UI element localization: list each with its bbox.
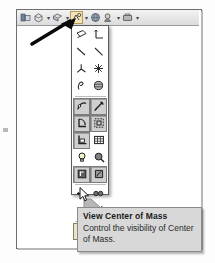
routing-point-icon (75, 78, 88, 96)
display-style-icon (90, 12, 101, 23)
origin-icon (92, 44, 105, 62)
center-of-mass-tooltip: View Center of Mass Control the visibili… (77, 207, 202, 252)
view-route-points-item[interactable] (73, 186, 90, 203)
apply-scene-dropdown-arrow[interactable]: ▾ (134, 11, 140, 24)
zoom-to-area-button[interactable] (32, 11, 45, 24)
hide-show-items-flyout[interactable] (71, 25, 109, 195)
view-temporary-axes-item[interactable] (73, 44, 90, 61)
sketch-3d-icon (76, 115, 88, 133)
camera-icon (93, 149, 105, 167)
light-bulb-icon (76, 149, 88, 167)
view-origins-item[interactable] (90, 44, 107, 61)
tooltip-title: View Center of Mass (83, 211, 196, 222)
tooltip-body: Control the visibility of Center of Mass… (83, 223, 196, 245)
point-icon (92, 61, 105, 79)
hide-show-items-button[interactable] (70, 11, 83, 24)
display-style-button[interactable] (89, 11, 102, 24)
view-routing-points-item[interactable] (73, 78, 90, 95)
scan-artifact (3, 128, 8, 132)
plane-icon (75, 27, 88, 45)
zoom-to-fit-icon (20, 12, 31, 23)
view-3d-sketches-item[interactable] (73, 115, 90, 132)
view-lights-item[interactable] (73, 149, 90, 166)
zoom-to-fit-button[interactable] (19, 11, 32, 24)
apply-scene-button[interactable] (121, 11, 134, 24)
previous-view-button[interactable] (51, 11, 64, 24)
view-orientation-button[interactable] (102, 11, 115, 24)
view-grid-item[interactable] (90, 132, 107, 149)
sketch-dimension-icon (76, 132, 88, 150)
annotation-icon (76, 166, 88, 184)
view-axes-item[interactable] (90, 27, 107, 44)
view-sketch-dimensions-item[interactable] (73, 132, 90, 149)
view-all-annotations-item[interactable] (73, 166, 90, 183)
view-curves-item[interactable] (73, 98, 90, 115)
view-planes-item[interactable] (73, 27, 90, 44)
apply-scene-icon (122, 12, 133, 23)
view-points-item[interactable] (90, 61, 107, 78)
view-weld-beads-item[interactable] (90, 186, 107, 203)
view-cameras-item[interactable] (90, 149, 107, 166)
curve-icon (76, 98, 88, 116)
zoom-to-area-icon (33, 12, 44, 23)
view-decals-item[interactable] (90, 166, 107, 183)
grid-icon (93, 132, 105, 150)
hide-show-items-icon (71, 12, 82, 23)
view-parting-lines-item[interactable] (90, 78, 107, 95)
coordinate-system-icon (75, 61, 88, 79)
weld-bead-icon (92, 186, 105, 204)
axis-icon (92, 27, 105, 45)
view-sketch-relations-item[interactable] (90, 115, 107, 132)
view-coordinate-systems-item[interactable] (73, 61, 90, 78)
view-sketches-item[interactable] (90, 98, 107, 115)
parting-line-icon (92, 78, 105, 96)
sketch-relation-icon (93, 115, 105, 133)
view-toolbar[interactable]: ▾ ▾ ▾ (17, 10, 199, 26)
view-orientation-icon (103, 12, 114, 23)
route-point-icon (75, 186, 88, 204)
temporary-axis-icon (75, 44, 88, 62)
previous-view-icon (52, 12, 63, 23)
decal-icon (93, 166, 105, 184)
screenshot-root: ▾ ▾ ▾ (0, 0, 215, 263)
sketch-icon (93, 98, 105, 116)
